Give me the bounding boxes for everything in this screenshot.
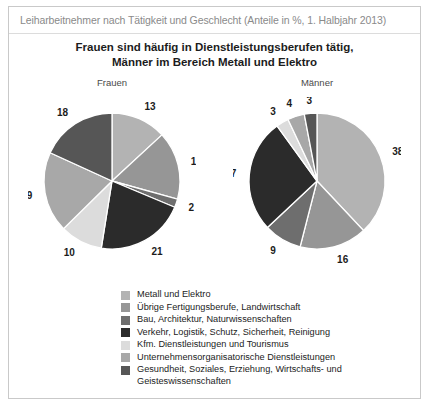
legend-swatch <box>121 341 130 350</box>
panel-men-title: Männer <box>214 77 420 88</box>
legend-label: Kfm. Dienstleistungen und Tourismus <box>137 339 289 351</box>
legend-item: Bau, Architektur, Naturwissenschaften <box>121 314 421 326</box>
legend-item: Gesundheit, Soziales, Erziehung, Wirtsch… <box>121 364 421 387</box>
pie-women-svg: 1316221101918 <box>28 97 196 265</box>
legend-label: Gesundheit, Soziales, Erziehung, Wirtsch… <box>137 364 421 387</box>
header-title: Leiharbeitnehmer nach Tätigkeit und Gesc… <box>9 14 386 26</box>
panel-women: Frauen 1316221101918 <box>9 77 215 277</box>
pie-value-label: 16 <box>191 156 196 167</box>
pie-value-label: 4 <box>286 98 292 109</box>
legend-swatch <box>121 291 130 300</box>
legend-swatch <box>121 328 130 337</box>
legend-swatch <box>121 366 130 375</box>
pie-value-label: 2 <box>189 202 195 213</box>
subtitle-line-2: Männer im Bereich Metall und Elektro <box>9 55 420 70</box>
legend-swatch <box>121 316 130 325</box>
legend-swatch <box>121 303 130 312</box>
pie-value-label: 10 <box>64 247 76 258</box>
legend-label: Übrige Fertigungsberufe, Landwirtschaft <box>137 302 300 314</box>
card-header: Leiharbeitnehmer nach Tätigkeit und Gesc… <box>9 7 420 34</box>
infographic-card: Leiharbeitnehmer nach Tätigkeit und Gesc… <box>8 6 421 399</box>
pie-value-label: 9 <box>270 245 276 256</box>
legend-item: Unternehmensorganisatorische Dienstleist… <box>121 352 421 364</box>
legend-label: Verkehr, Logistik, Schutz, Sicherheit, R… <box>137 327 330 339</box>
legend-swatch <box>121 353 130 362</box>
subtitle-line-1: Frauen sind häufig in Dienstleistungsber… <box>9 40 420 55</box>
pie-value-label: 3 <box>307 97 313 106</box>
pie-panels: Frauen 1316221101918 Männer 3816927343 <box>9 77 420 277</box>
panel-men: Männer 3816927343 <box>214 77 420 277</box>
pie-value-label: 27 <box>233 168 237 179</box>
pie-value-label: 18 <box>57 107 69 118</box>
legend-item: Kfm. Dienstleistungen und Tourismus <box>121 339 421 351</box>
pie-chart-men: 3816927343 <box>233 97 401 265</box>
pie-value-label: 38 <box>392 146 401 157</box>
panel-women-title: Frauen <box>9 77 215 88</box>
legend-item: Metall und Elektro <box>121 289 421 301</box>
pie-value-label: 13 <box>145 101 157 112</box>
chart-subtitle: Frauen sind häufig in Dienstleistungsber… <box>9 40 420 70</box>
legend-label: Metall und Elektro <box>137 289 211 301</box>
legend-label: Bau, Architektur, Naturwissenschaften <box>137 314 292 326</box>
chart-legend: Metall und ElektroÜbrige Fertigungsberuf… <box>121 289 421 388</box>
pie-value-label: 3 <box>270 106 276 117</box>
pie-value-label: 16 <box>337 254 349 265</box>
legend-label: Unternehmensorganisatorische Dienstleist… <box>137 352 335 364</box>
pie-chart-women: 1316221101918 <box>28 97 196 265</box>
legend-item: Verkehr, Logistik, Schutz, Sicherheit, R… <box>121 327 421 339</box>
pie-value-label: 19 <box>28 190 33 201</box>
pie-men-svg: 3816927343 <box>233 97 401 265</box>
legend-item: Übrige Fertigungsberufe, Landwirtschaft <box>121 302 421 314</box>
pie-value-label: 21 <box>151 246 163 257</box>
